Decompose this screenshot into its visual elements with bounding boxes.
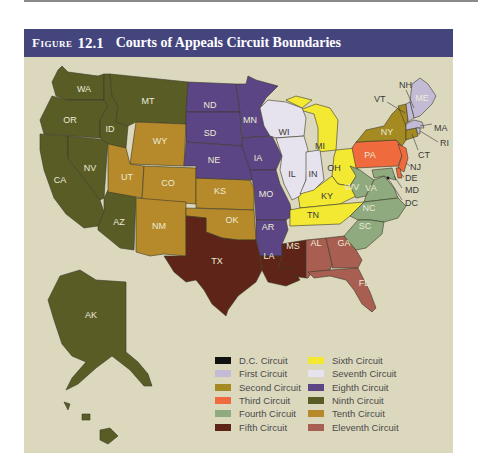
- swatch-fifth: [215, 424, 231, 431]
- legend-label: Ninth Circuit: [332, 395, 384, 406]
- label-nm: NM: [152, 221, 166, 231]
- legend-column-right: Sixth Circuit Seventh Circuit Eighth Cir…: [308, 354, 399, 434]
- label-sc: SC: [359, 221, 372, 231]
- state-hi: [64, 402, 118, 444]
- callout-de: DE: [405, 173, 418, 183]
- legend-column-left: D.C. Circuit First Circuit Second Circui…: [215, 354, 301, 434]
- label-wv: WV: [345, 182, 360, 192]
- label-ky: KY: [321, 191, 333, 201]
- label-ut: UT: [121, 172, 133, 182]
- state-fl: [308, 268, 376, 312]
- swatch-first: [215, 370, 231, 377]
- label-va: VA: [365, 183, 376, 193]
- label-sd: SD: [204, 128, 217, 138]
- callout-ma: MA: [434, 123, 448, 133]
- label-wa: WA: [77, 84, 91, 94]
- label-ny: NY: [381, 127, 394, 137]
- callout-ct: CT: [418, 150, 430, 160]
- label-wy: WY: [153, 136, 168, 146]
- label-ia: IA: [254, 153, 263, 163]
- label-mo: MO: [259, 189, 274, 199]
- swatch-seventh: [308, 370, 324, 377]
- label-me: ME: [415, 93, 429, 103]
- legend-item-seventh: Seventh Circuit: [308, 367, 399, 380]
- label-la: LA: [263, 251, 274, 261]
- label-tx: TX: [211, 256, 223, 266]
- legend-label: Sixth Circuit: [332, 355, 383, 366]
- label-fl: FL: [359, 278, 370, 288]
- callout-ri: RI: [440, 138, 449, 148]
- label-pa: PA: [364, 150, 375, 160]
- label-az: AZ: [113, 217, 125, 227]
- label-id: ID: [106, 124, 116, 134]
- label-nc: NC: [363, 203, 376, 213]
- legend-label: Tenth Circuit: [332, 408, 385, 419]
- legend-label: Third Circuit: [239, 395, 290, 406]
- legend-item-tenth: Tenth Circuit: [308, 407, 399, 420]
- state-pa: [352, 140, 404, 168]
- label-oh: OH: [327, 163, 341, 173]
- label-wi: WI: [279, 127, 290, 137]
- ninth-circuit-states: [40, 66, 188, 444]
- label-ok: OK: [225, 215, 238, 225]
- label-mt: MT: [142, 96, 155, 106]
- label-al: AL: [310, 238, 321, 248]
- label-co: CO: [161, 178, 175, 188]
- callout-nh: NH: [399, 80, 412, 90]
- swatch-ninth: [308, 397, 324, 404]
- legend-item-first: First Circuit: [215, 367, 301, 380]
- legend-item-fourth: Fourth Circuit: [215, 407, 301, 420]
- label-ar: AR: [262, 222, 275, 232]
- swatch-eleventh: [308, 424, 324, 431]
- callout-md: MD: [405, 185, 419, 195]
- callout-nj: NJ: [410, 162, 421, 172]
- figure-panel: Figure 12.1 Courts of Appeals Circuit Bo…: [24, 29, 453, 453]
- swatch-eighth: [308, 384, 324, 391]
- label-ks: KS: [214, 186, 226, 196]
- label-ne: NE: [208, 155, 221, 165]
- legend-item-third: Third Circuit: [215, 394, 301, 407]
- state-nc: [350, 198, 406, 222]
- top-rule: [24, 0, 478, 2]
- swatch-tenth: [308, 410, 324, 417]
- label-ca: CA: [54, 175, 67, 185]
- legend-label: First Circuit: [239, 368, 287, 379]
- label-il: IL: [288, 169, 296, 179]
- label-or: OR: [63, 115, 77, 125]
- label-mn: MN: [243, 115, 257, 125]
- label-nv: NV: [84, 163, 97, 173]
- swatch-second: [215, 384, 231, 391]
- legend-item-fifth: Fifth Circuit: [215, 420, 301, 433]
- legend-label: Fifth Circuit: [239, 422, 287, 433]
- legend-label: Eighth Circuit: [332, 382, 389, 393]
- legend-item-eighth: Eighth Circuit: [308, 381, 399, 394]
- callout-vt: VT: [374, 94, 386, 104]
- label-tn: TN: [307, 210, 319, 220]
- label-nd: ND: [204, 100, 217, 110]
- state-wa: [52, 66, 104, 100]
- swatch-third: [215, 397, 231, 404]
- swatch-sixth: [308, 357, 324, 364]
- legend-item-second: Second Circuit: [215, 381, 301, 394]
- label-in: IN: [309, 169, 318, 179]
- callout-dc: DC: [405, 198, 418, 208]
- swatch-dc: [215, 357, 231, 364]
- legend-label: Second Circuit: [239, 382, 301, 393]
- legend-label: Seventh Circuit: [332, 368, 396, 379]
- label-ak: AK: [85, 310, 97, 320]
- legend-item-dc: D.C. Circuit: [215, 354, 301, 367]
- legend-item-sixth: Sixth Circuit: [308, 354, 399, 367]
- label-mi: MI: [315, 141, 325, 151]
- legend-label: Eleventh Circuit: [332, 422, 399, 433]
- swatch-fourth: [215, 410, 231, 417]
- legend-item-ninth: Ninth Circuit: [308, 394, 399, 407]
- legend-item-eleventh: Eleventh Circuit: [308, 420, 399, 433]
- label-ga: GA: [337, 238, 350, 248]
- state-ak: [48, 270, 152, 390]
- legend-label: D.C. Circuit: [239, 355, 288, 366]
- label-ms: MS: [286, 241, 300, 251]
- legend-label: Fourth Circuit: [239, 408, 296, 419]
